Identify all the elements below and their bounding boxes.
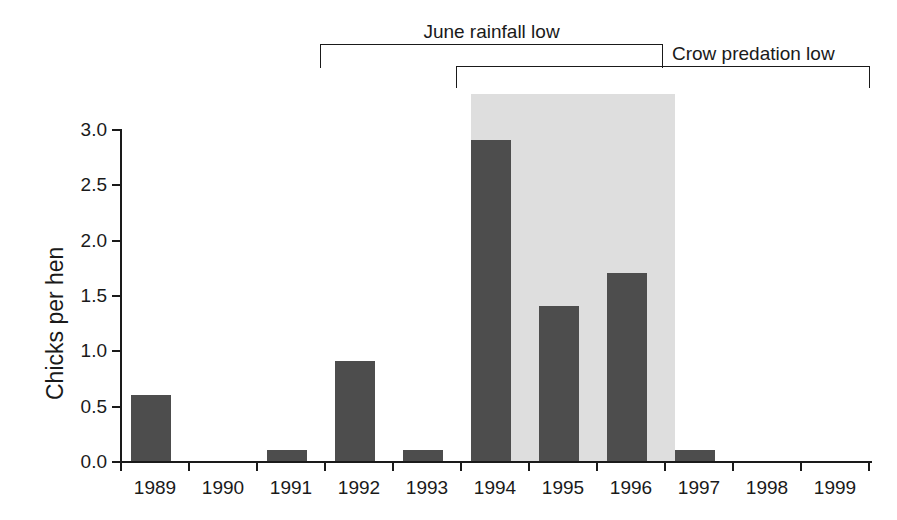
bar-1991 (267, 450, 307, 461)
x-tick-3 (324, 461, 326, 471)
clipped-caption-remnant (0, 0, 897, 6)
bar-chart-figure: 3.0 2.5 2.0 1.5 1.0 0.5 0.0 Chicks per h… (0, 0, 897, 520)
y-tick-3-0 (112, 129, 121, 131)
bracket-label-crow-predation-low: Crow predation low (672, 44, 897, 63)
bar-1995 (539, 306, 579, 461)
bar-1993 (403, 450, 443, 461)
bracket-june-rainfall-low (320, 44, 663, 68)
bar-1997 (675, 450, 715, 461)
y-tick-2-0 (112, 240, 121, 242)
x-tick-label-1999: 1999 (797, 478, 873, 497)
x-tick-7 (596, 461, 598, 471)
x-tick-8 (664, 461, 666, 471)
x-tick-2 (256, 461, 258, 471)
y-tick-1-0 (112, 350, 121, 352)
y-axis-title: Chicks per hen (42, 247, 69, 400)
x-tick-label-1995: 1995 (525, 478, 601, 497)
x-axis-line (120, 461, 872, 463)
x-tick-label-1991: 1991 (253, 478, 329, 497)
x-tick-6 (528, 461, 530, 471)
bar-1992 (335, 361, 375, 461)
bar-1994 (471, 140, 511, 461)
x-tick-label-1994: 1994 (457, 478, 533, 497)
x-tick-label-1989: 1989 (117, 478, 193, 497)
y-tick-0-5 (112, 406, 121, 408)
y-tick-label-3-0: 3.0 (55, 120, 107, 139)
x-tick-5 (460, 461, 462, 471)
x-tick-9 (732, 461, 734, 471)
bar-1996 (607, 273, 647, 461)
x-tick-0 (120, 461, 122, 471)
x-tick-4 (392, 461, 394, 471)
x-tick-label-1997: 1997 (661, 478, 737, 497)
x-tick-label-1996: 1996 (593, 478, 669, 497)
bar-1989 (131, 395, 171, 461)
x-tick-label-1992: 1992 (321, 478, 397, 497)
x-tick-1 (188, 461, 190, 471)
x-tick-10 (800, 461, 802, 471)
x-tick-11 (868, 461, 870, 471)
x-tick-label-1990: 1990 (185, 478, 261, 497)
x-tick-label-1998: 1998 (729, 478, 805, 497)
y-tick-label-2-5: 2.5 (55, 175, 107, 194)
bracket-crow-predation-low (456, 66, 870, 88)
y-tick-1-5 (112, 295, 121, 297)
bracket-label-june-rainfall-low: June rainfall low (320, 22, 663, 41)
x-tick-label-1993: 1993 (389, 478, 465, 497)
y-tick-2-5 (112, 184, 121, 186)
y-tick-label-0-0: 0.0 (55, 452, 107, 471)
